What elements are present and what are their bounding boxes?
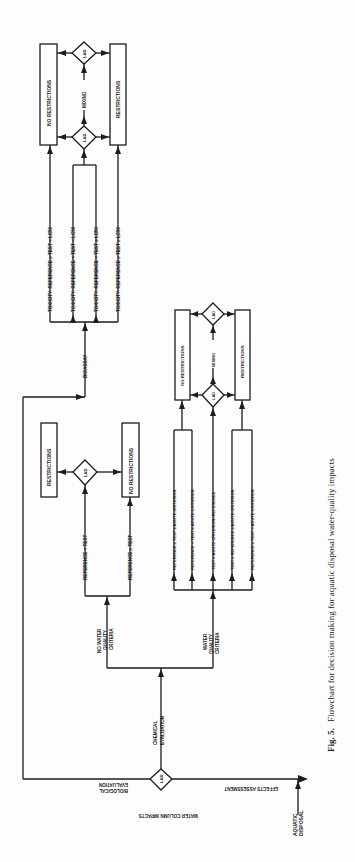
- arrow-up-icon: [93, 315, 99, 323]
- arrow-up-icon: [189, 573, 195, 581]
- bioassay-condition-1: TOXICITY: REFERENCE ≥ TEST < LC50: [48, 226, 53, 312]
- wqc-mixing-label: MIXING: [211, 353, 216, 367]
- arrow-left-icon: [191, 392, 198, 398]
- wqc-condition-4: TEST ≥ REFERENCE ≥ ACUTE CRITERION: [230, 489, 235, 570]
- caption-text: Flowchart for decision making for aquati…: [326, 458, 336, 722]
- arrow-up-icon: [239, 401, 245, 409]
- wqc-condition-2: REFERENCE < TEST ≤ ACUTE CRITERION: [190, 489, 195, 570]
- arrow-up-icon: [82, 323, 88, 331]
- bioassay-condition-3: TOXICITY: REFERENCE < TEST ≥ LC50: [94, 226, 99, 312]
- arrow-up-icon: [81, 150, 87, 158]
- bioassay-no-restrictions-label: NO RESTRICTIONS: [46, 79, 52, 126]
- aquatic-disposal-label: AQUATIC DISPOSAL: [292, 810, 304, 836]
- arrow-up-icon: [81, 116, 87, 124]
- arrow-up-icon: [104, 597, 110, 605]
- arrow-right-icon: [227, 311, 234, 317]
- no-wqc-condition-2: REFERENCE ≥ TEST: [128, 535, 133, 580]
- biological-evaluation-label: EVALUATION BIOLOGICAL: [98, 782, 128, 793]
- document-page: AQUATIC DISPOSAL EFFECTS ASSESSMENT WATE…: [0, 0, 355, 862]
- root-flow: AQUATIC DISPOSAL EFFECTS ASSESSMENT WATE…: [23, 394, 308, 836]
- arrow-up-icon: [47, 146, 53, 154]
- arrow-right-icon: [113, 469, 121, 475]
- wqc-lad-lower-label: LAD: [211, 392, 216, 400]
- arrow-right-icon: [101, 50, 109, 56]
- bioassay-lad-lower-label: LAD: [82, 133, 87, 142]
- bioassay-branch: BIOASSAY TOXICITY: REFERENCE ≥ TEST < LC…: [40, 42, 126, 397]
- arrow-up-icon: [295, 781, 301, 789]
- bioassay-mixing-label: MIXING: [82, 91, 87, 108]
- no-wqc-condition-1: REFERENCE < TEST: [83, 534, 88, 580]
- arrow-left-icon: [58, 50, 66, 56]
- wqc-no-restrictions-label: NO RESTRICTIONS: [180, 345, 185, 386]
- svg-text:Fig. 5. Flowchart for de: Fig. 5. Flowchart for decision making fo…: [326, 458, 336, 752]
- arrow-up-icon: [229, 573, 235, 581]
- arrow-up-icon: [210, 573, 216, 581]
- water-column-impacts-label: WATER COLUMN IMPACTS: [139, 813, 198, 818]
- wqc-condition-1: REFERENCE ≥ TEST ≤ ACUTE CRITERION: [172, 489, 177, 570]
- arrow-right-icon: [101, 134, 109, 140]
- bioassay-label: BIOASSAY: [83, 354, 88, 378]
- arrow-up-icon: [171, 573, 177, 581]
- wqc-condition-3: TEST ≥ ACUTE CRITERION>REFERENCE: [211, 491, 216, 570]
- no-wqc-label: NO WATER QUALITY CRITERIA: [97, 627, 114, 653]
- arrow-left-icon: [191, 311, 198, 317]
- no-wqc-branch: NO WATER QUALITY CRITERIA REFERENCE < TE…: [41, 423, 139, 668]
- bioassay-condition-2: TOXICITY: REFERENCE < TEST < LC50: [71, 226, 76, 312]
- arrow-up-icon: [82, 486, 88, 494]
- no-wqc-no-restrictions-label: NO RESTRICTIONS: [128, 447, 134, 494]
- root-lad-label: LAD: [159, 774, 164, 783]
- figure-caption: Fig. 5. Flowchart for decision making fo…: [326, 458, 336, 752]
- bioassay-lad-upper-label: LAD: [82, 49, 87, 58]
- wqc-lad-upper-label: LAD: [211, 311, 216, 319]
- arrow-left-icon: [58, 469, 66, 475]
- bioassay-condition-4: TOXICITY: REFERENCE ≥ TEST ≥ LC50: [116, 227, 121, 312]
- arrow-up-icon: [210, 326, 216, 333]
- arrow-up-icon: [179, 401, 185, 409]
- caption-label: Fig. 5.: [326, 728, 336, 752]
- arrow-up-icon: [81, 65, 87, 73]
- arrow-left-icon: [58, 134, 66, 140]
- arrow-up-icon: [70, 315, 76, 323]
- flowchart: AQUATIC DISPOSAL EFFECTS ASSESSMENT WATE…: [0, 0, 355, 862]
- effects-assessment-label: EFFECTS ASSESSMENT: [224, 786, 278, 791]
- wqc-condition-5: REFERENCE ≥ TEST > ACUTE CRITERION: [250, 489, 255, 570]
- arrow-up-icon: [115, 146, 121, 154]
- chemical-evaluation-label: CHEMICAL EVALUATION: [153, 715, 165, 745]
- arrow-up-icon: [210, 377, 216, 384]
- arrow-up-icon: [210, 408, 216, 416]
- bioassay-restrictions-label: RESTRICTIONS: [115, 80, 121, 118]
- wqc-branch: WATER QUALITY CRITERIA REFERENCE ≥ TEST …: [171, 303, 255, 668]
- arrow-right-icon: [76, 394, 84, 400]
- no-wqc-lad-label: LAD: [83, 468, 88, 477]
- arrow-up-icon: [158, 669, 164, 677]
- arrow-up-icon: [210, 591, 216, 599]
- arrow-right-icon: [298, 775, 308, 783]
- wqc-restrictions-label: RESTRICTIONS: [240, 345, 245, 378]
- arrow-up-icon: [249, 573, 255, 581]
- no-wqc-restrictions-label: RESTRICTIONS: [46, 448, 52, 486]
- arrow-right-icon: [227, 392, 234, 398]
- wqc-label: WATER QUALITY CRITERIA: [203, 632, 220, 654]
- arrow-up-icon: [127, 498, 133, 506]
